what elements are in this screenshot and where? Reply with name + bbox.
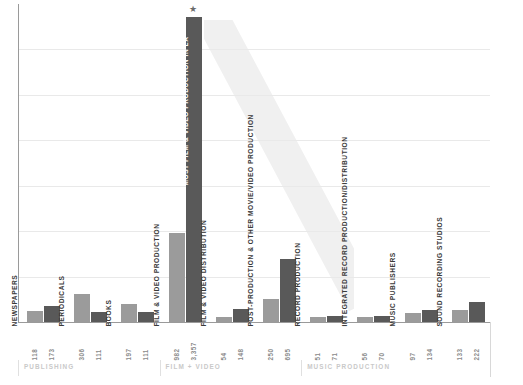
bar-series-a xyxy=(405,313,421,322)
category-label: INTEGRATED RECORD PRODUCTION/DISTRIBUTIO… xyxy=(343,136,350,326)
bar-series-a xyxy=(121,304,137,322)
group-label-block: PUBLISHING xyxy=(18,360,160,380)
group-label-block: MUSIC PRODUCTION xyxy=(301,360,490,380)
value-label-a: 306 xyxy=(79,349,85,361)
bar-series-b xyxy=(138,312,154,322)
value-label-a: 133 xyxy=(456,349,462,361)
chart-root: NEWSPAPERSPERIODICALSBOOKSFILM & VIDEO P… xyxy=(0,0,523,385)
category-label: FILM & VIDEO PRODUCTION xyxy=(154,223,161,326)
group-divider xyxy=(301,360,302,376)
value-label-a: 118 xyxy=(32,349,38,361)
bar-series-a xyxy=(74,294,90,322)
bar-series-b xyxy=(422,310,438,322)
diagonal-watermark xyxy=(204,20,354,320)
group-label-block: FILM + VIDEO xyxy=(160,360,302,380)
value-label-b: 222 xyxy=(473,349,479,361)
bar-series-a xyxy=(27,311,43,322)
category-label: SOUND RECORDING STUDIOS xyxy=(437,217,444,327)
value-label-a: 197 xyxy=(126,349,132,361)
bar-series-a xyxy=(452,310,468,322)
group-divider xyxy=(160,360,161,376)
star-icon: ★ xyxy=(189,5,197,14)
category-label: PERIODICALS xyxy=(60,275,67,326)
value-label-b: 111 xyxy=(143,349,149,360)
value-label-b: 111 xyxy=(96,349,102,360)
group-label: PUBLISHING xyxy=(24,363,74,370)
bar-series-b xyxy=(469,302,485,322)
bar-series-a xyxy=(263,299,279,322)
value-label-b: 173 xyxy=(49,349,55,361)
value-label-b: 3,357 xyxy=(190,342,196,360)
gridline xyxy=(18,49,490,50)
group-footer: PUBLISHINGFILM + VIDEOMUSIC PRODUCTION xyxy=(18,360,508,380)
category-label: POST-PRODUCTION & OTHER MOVIE/VIDEO PROD… xyxy=(248,114,255,327)
group-divider xyxy=(18,360,19,376)
group-label: MUSIC PRODUCTION xyxy=(307,363,390,370)
value-label-b: 148 xyxy=(237,349,243,361)
gridline xyxy=(18,95,490,96)
category-label: MUSIC PUBLISHERS xyxy=(390,252,397,326)
category-label: FILM & VIDEO DISTRIBUTION xyxy=(201,220,208,327)
bar-series-a xyxy=(169,233,185,322)
bar-series-b xyxy=(233,309,249,322)
category-label: NEWSPAPERS xyxy=(12,275,19,327)
value-label-b: 695 xyxy=(285,349,291,361)
annotation-label: MOST FILM & VIDEO PRODUCTION IN LA xyxy=(183,36,190,185)
category-label: RECORD PRODUCTION xyxy=(296,243,303,327)
value-label-b: 134 xyxy=(426,349,432,361)
value-label-a: 250 xyxy=(268,349,274,361)
group-label: FILM + VIDEO xyxy=(166,363,221,370)
value-label-a: 982 xyxy=(173,349,179,361)
category-label: BOOKS xyxy=(107,300,114,327)
